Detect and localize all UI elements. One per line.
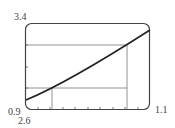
function-curve (26, 30, 150, 100)
y-min-label: 2.6 (18, 116, 31, 126)
y-max-label: 3.4 (14, 12, 27, 22)
plot-frame (26, 24, 150, 110)
y-axis-ticks (26, 45, 28, 88)
x-max-label: 1.1 (155, 105, 168, 115)
x-axis-ticks (38, 107, 138, 109)
